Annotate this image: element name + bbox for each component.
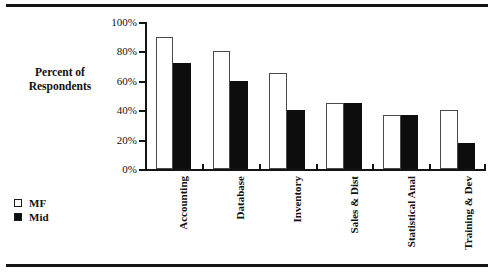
x-axis-category-label: Database bbox=[235, 176, 246, 266]
bar-group bbox=[269, 22, 304, 169]
y-axis-tick-mark bbox=[139, 140, 145, 142]
legend-swatch-icon bbox=[14, 199, 22, 207]
bar-group bbox=[383, 22, 418, 169]
x-axis-category-label: Accounting bbox=[178, 176, 189, 266]
legend-item[interactable]: Mid bbox=[14, 210, 49, 224]
bar-mid[interactable] bbox=[401, 115, 419, 169]
bar-group bbox=[156, 22, 191, 169]
bar-mid[interactable] bbox=[458, 143, 476, 169]
x-axis-divider bbox=[202, 164, 204, 171]
legend-item-label: MF bbox=[29, 197, 46, 209]
x-axis-divider bbox=[429, 164, 431, 171]
legend-item[interactable]: MF bbox=[14, 196, 49, 210]
y-axis-tick-label: 60% bbox=[117, 75, 137, 87]
bar-mf[interactable] bbox=[383, 115, 401, 169]
y-axis-tick-label: 20% bbox=[117, 134, 137, 146]
y-axis-tick-mark bbox=[139, 51, 145, 53]
y-axis-line bbox=[145, 22, 147, 171]
y-axis-tick-label: 0% bbox=[122, 163, 137, 175]
x-axis-divider bbox=[259, 164, 261, 171]
bar-chart-figure: Percent of Respondents 100%80%60%40%20%0… bbox=[0, 0, 494, 276]
y-axis-tick-label: 100% bbox=[111, 16, 137, 28]
bar-mf[interactable] bbox=[440, 110, 458, 169]
bar-group bbox=[213, 22, 248, 169]
chart-legend: MFMid bbox=[14, 196, 49, 224]
bar-group bbox=[326, 22, 361, 169]
x-axis-divider bbox=[316, 164, 318, 171]
y-axis-title: Percent of Respondents bbox=[14, 66, 106, 93]
bar-mid[interactable] bbox=[344, 103, 362, 169]
bar-group bbox=[440, 22, 475, 169]
legend-item-label: Mid bbox=[29, 211, 49, 223]
x-axis-category-label: Training & Dev bbox=[463, 176, 474, 266]
bar-mf[interactable] bbox=[269, 73, 287, 169]
x-axis-category-label: Inventory bbox=[292, 176, 303, 266]
x-axis-category-label: Statistical Anal bbox=[406, 176, 417, 266]
y-axis-tick-mark bbox=[139, 22, 145, 24]
bar-mid[interactable] bbox=[230, 81, 248, 169]
plot-area: 100%80%60%40%20%0% bbox=[145, 22, 486, 171]
y-axis-tick-mark bbox=[139, 110, 145, 112]
x-axis-category-label: Sales & Dist bbox=[349, 176, 360, 266]
y-axis-tick-label: 80% bbox=[117, 45, 137, 57]
y-axis-tick-mark bbox=[139, 169, 145, 171]
bar-mf[interactable] bbox=[213, 51, 231, 169]
bar-mid[interactable] bbox=[287, 110, 305, 169]
x-axis-divider bbox=[372, 164, 374, 171]
x-axis-divider bbox=[484, 164, 486, 171]
legend-swatch-icon bbox=[14, 213, 22, 221]
bar-mid[interactable] bbox=[173, 63, 191, 169]
bar-mf[interactable] bbox=[326, 103, 344, 169]
bar-mf[interactable] bbox=[156, 37, 174, 169]
y-axis-tick-mark bbox=[139, 81, 145, 83]
y-axis-tick-label: 40% bbox=[117, 104, 137, 116]
